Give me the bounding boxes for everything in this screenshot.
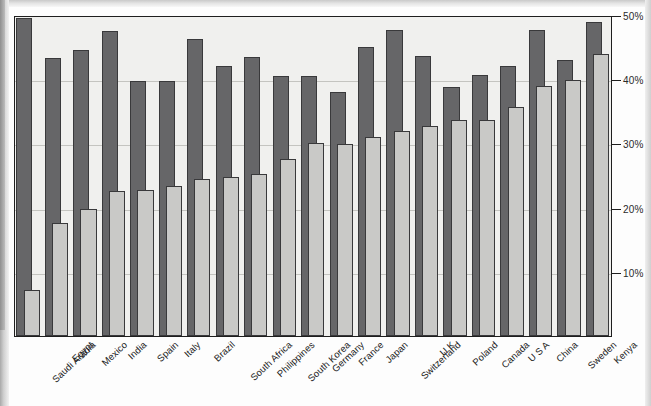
y-tick-label-20: 20%: [623, 203, 644, 214]
y-tick-20: [612, 209, 621, 210]
bar-group: [129, 17, 157, 336]
y-tick-label-40: 40%: [623, 75, 644, 86]
bar-group: [357, 17, 385, 336]
bar-front-mexico: [80, 209, 96, 336]
bar-group: [556, 17, 584, 336]
bar-group: [157, 17, 185, 336]
bar-group: [528, 17, 556, 336]
bar-group: [414, 17, 442, 336]
bar-front-u-k: [422, 126, 438, 336]
x-axis-label-u-s-a: U S A: [525, 339, 551, 364]
bar-front-saudi-arabia: [24, 290, 40, 336]
bar-group: [15, 17, 43, 336]
scan-edge-left-inner: [0, 0, 5, 330]
bar-front-sweden: [565, 80, 581, 336]
x-axis-label-china: China: [554, 339, 580, 364]
bar-front-india: [109, 191, 125, 336]
scan-edge-top: [0, 0, 651, 7]
bar-group: [43, 17, 71, 336]
bars-layer: [15, 17, 611, 336]
y-tick-label-50: 50%: [623, 11, 644, 22]
bar-group: [471, 17, 499, 336]
bar-front-south-africa: [223, 177, 239, 336]
y-tick-10: [612, 273, 621, 274]
bar-group: [442, 17, 470, 336]
bar-front-kenya: [593, 54, 609, 336]
y-tick-label-10: 10%: [623, 267, 644, 278]
bar-front-italy: [166, 186, 182, 336]
y-axis: 10%20%30%40%50%: [612, 16, 651, 337]
bar-group: [585, 17, 613, 336]
bar-group: [328, 17, 356, 336]
x-axis-label-brazil: Brazil: [212, 339, 237, 364]
x-axis-label-poland: Poland: [470, 339, 500, 368]
y-tick-50: [612, 16, 621, 17]
x-axis-label-spain: Spain: [155, 339, 181, 364]
bar-group: [385, 17, 413, 336]
x-axis-label-italy: Italy: [182, 339, 203, 359]
bar-group: [100, 17, 128, 336]
y-tick-label-30: 30%: [623, 139, 644, 150]
bar-group: [214, 17, 242, 336]
bar-front-china: [536, 86, 552, 336]
bar-front-germany: [308, 143, 324, 336]
bar-group: [243, 17, 271, 336]
y-tick-30: [612, 144, 621, 145]
bar-front-philippines: [251, 174, 267, 336]
bar-front-egypt: [52, 223, 68, 336]
plot-area: [14, 16, 612, 337]
y-tick-40: [612, 80, 621, 81]
bar-front-switzerland: [394, 131, 410, 336]
x-axis-labels: Saudi ArabiaEgyptMexicoIndiaSpainItalyBr…: [14, 339, 612, 406]
chart-page: 10%20%30%40%50% Saudi ArabiaEgyptMexicoI…: [0, 0, 651, 406]
bar-front-canada: [479, 120, 495, 336]
bar-front-u-s-a: [508, 107, 524, 336]
bar-back-saudi-arabia: [16, 18, 32, 336]
bar-group: [271, 17, 299, 336]
bar-front-spain: [137, 190, 153, 336]
x-axis-label-india: India: [126, 339, 149, 361]
bar-group: [186, 17, 214, 336]
bar-front-brazil: [194, 179, 210, 336]
bar-group: [72, 17, 100, 336]
bar-front-france: [337, 144, 353, 336]
bar-group: [300, 17, 328, 336]
x-axis-label-japan: Japan: [383, 339, 410, 365]
bar-front-poland: [451, 120, 467, 336]
bar-front-south-korea: [280, 159, 296, 336]
bar-group: [499, 17, 527, 336]
bar-front-japan: [365, 137, 381, 336]
